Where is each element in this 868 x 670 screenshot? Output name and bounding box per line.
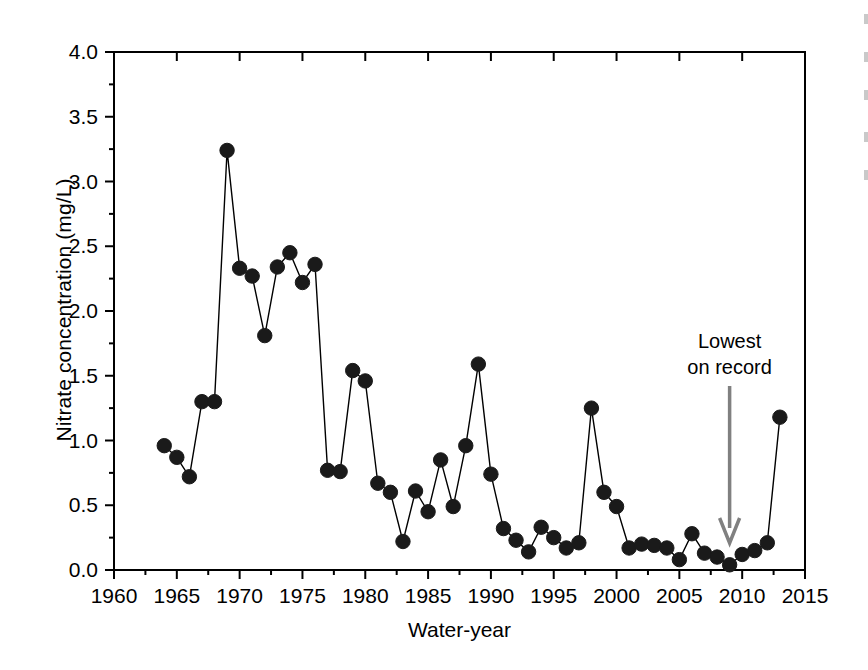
data-point [346,363,360,377]
data-point [220,143,234,157]
annotation-line-1: Lowest [698,330,762,352]
x-tick-label: 1980 [342,584,389,607]
data-point [333,464,347,478]
y-tick-mark-group [105,52,114,570]
y-tick-label: 1.0 [69,429,98,452]
y-tick-label: 2.5 [69,234,98,257]
x-tick-label-group: 1960196519701975198019851990199520002005… [91,584,829,607]
annotation-lowest-on-record: Loweston record [687,330,772,543]
x-tick-label: 2010 [719,584,766,607]
y-tick-label: 2.0 [69,299,98,322]
data-point [295,275,309,289]
y-tick-label: 4.0 [69,40,98,63]
data-point [245,269,259,283]
data-point [496,521,510,535]
data-point [408,484,422,498]
data-point [421,505,435,519]
data-point [760,536,774,550]
data-point [722,558,736,572]
data-point [459,438,473,452]
figure-nitrate-concentration: Nitrate concentration (mg/L) Water-year … [0,0,868,670]
x-tick-mark-group [114,52,805,579]
data-point [584,401,598,415]
data-point [547,530,561,544]
data-point [597,485,611,499]
y-tick-label: 0.0 [69,558,98,581]
y-tick-label-group: 0.00.51.01.52.02.53.03.54.0 [69,40,98,581]
data-point [283,246,297,260]
data-point [446,499,460,513]
data-point [609,499,623,513]
y-tick-label: 3.0 [69,170,98,193]
edge-text-fragments [846,8,868,198]
data-point [521,545,535,559]
y-tick-label: 0.5 [69,493,98,516]
data-point [308,257,322,271]
data-point [433,453,447,467]
data-point [509,533,523,547]
data-point [660,541,674,555]
x-tick-label: 1965 [153,584,200,607]
data-point [773,410,787,424]
data-point [471,357,485,371]
x-tick-label: 1990 [468,584,515,607]
y-tick-label: 1.5 [69,364,98,387]
annotation-line-2: on record [687,356,772,378]
data-point [383,485,397,499]
data-point [207,394,221,408]
data-point [685,527,699,541]
data-point [672,552,686,566]
x-tick-label: 1995 [530,584,577,607]
x-tick-label: 1985 [405,584,452,607]
data-point [232,261,246,275]
x-tick-label: 1960 [91,584,138,607]
x-tick-label: 2000 [593,584,640,607]
x-tick-label: 1970 [216,584,263,607]
data-point [647,538,661,552]
data-point [170,450,184,464]
data-point [484,467,498,481]
data-point [572,536,586,550]
x-tick-label: 2005 [656,584,703,607]
data-point [258,328,272,342]
data-point [270,260,284,274]
data-point [710,550,724,564]
data-point [182,470,196,484]
y-tick-label: 3.5 [69,105,98,128]
data-point [358,374,372,388]
data-point [157,438,171,452]
data-point [396,534,410,548]
data-point [371,476,385,490]
x-tick-label: 2015 [782,584,829,607]
plot-frame [114,52,805,570]
chart-plot-area: 0.00.51.01.52.02.53.03.54.0 196019651970… [0,0,868,670]
data-point [534,520,548,534]
data-point [748,543,762,557]
x-tick-label: 1975 [279,584,326,607]
